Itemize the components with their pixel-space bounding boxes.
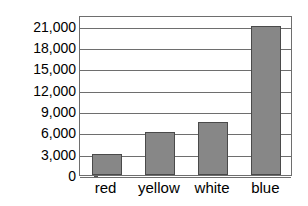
bar-group (80, 17, 291, 175)
y-axis-tick-label: 12,000 (18, 84, 76, 98)
bar (145, 132, 175, 175)
plot-area (79, 16, 292, 176)
bar (198, 122, 228, 175)
y-axis-tick-label: 9,000 (18, 105, 76, 119)
y-axis-tick-label: 21,000 (18, 20, 76, 34)
y-axis-tick-label: 18,000 (18, 41, 76, 55)
x-axis-tick-label: yellow (132, 178, 185, 198)
bar (92, 154, 122, 175)
y-axis-tick-label: 15,000 (18, 62, 76, 76)
y-axis-tick-label: 3,000 (18, 148, 76, 162)
y-axis-tick-label: 0 (18, 169, 76, 183)
x-axis-tick-label-group: redyellowwhiteblue (79, 178, 292, 200)
x-axis-tick-label: white (186, 178, 239, 198)
y-axis-tick-label: 6,000 (18, 126, 76, 140)
bar (251, 26, 281, 175)
bar-chart-figure: Temperature,°C 03,0006,0009,00012,00015,… (0, 0, 308, 206)
x-axis-tick-label: blue (239, 178, 292, 198)
y-axis-tick-label-group: 03,0006,0009,00012,00015,00018,00021,000 (18, 16, 76, 176)
x-axis-tick-label: red (79, 178, 132, 198)
